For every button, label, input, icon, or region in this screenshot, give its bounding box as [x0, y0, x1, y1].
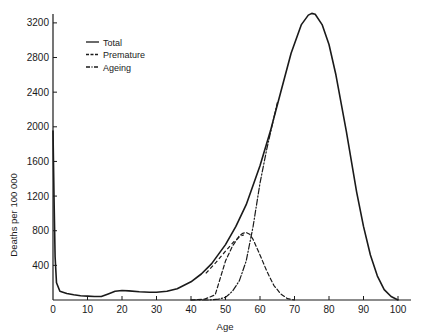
y-tick-label: 2800 [27, 52, 50, 63]
x-tick-label: 80 [323, 304, 335, 315]
x-tick-label: 90 [358, 304, 370, 315]
legend-label: Ageing [103, 63, 131, 73]
legend: TotalPrematureAgeing [86, 38, 145, 73]
legend-item-total: Total [86, 38, 122, 48]
x-tick-label: 60 [254, 304, 266, 315]
y-axis-label: Deaths per 100 000 [8, 173, 19, 256]
x-tick-label: 10 [82, 304, 94, 315]
x-tick-label: 100 [390, 304, 407, 315]
x-tick-label: 70 [289, 304, 301, 315]
axes: 4008001200160020002400280032000102030405… [27, 14, 411, 315]
y-tick-label: 2400 [27, 87, 50, 98]
y-tick-label: 800 [32, 225, 49, 236]
x-tick-label: 20 [116, 304, 128, 315]
y-tick-label: 1200 [27, 191, 50, 202]
legend-label: Premature [103, 50, 145, 60]
y-tick-label: 1600 [27, 156, 50, 167]
x-tick-label: 30 [151, 304, 163, 315]
legend-item-ageing: Ageing [86, 63, 131, 73]
x-tick-label: 50 [220, 304, 232, 315]
legend-label: Total [103, 38, 122, 48]
chart: 4008001200160020002400280032000102030405… [0, 0, 429, 336]
x-tick-label: 0 [50, 304, 56, 315]
legend-item-premature: Premature [86, 50, 145, 60]
y-tick-label: 400 [32, 260, 49, 271]
y-tick-label: 3200 [27, 17, 50, 28]
series-premature-line [191, 233, 295, 301]
y-tick-label: 2000 [27, 121, 50, 132]
x-tick-label: 40 [185, 304, 197, 315]
series-premature-upper-branch [206, 235, 244, 274]
x-axis-label: Age [217, 321, 234, 332]
